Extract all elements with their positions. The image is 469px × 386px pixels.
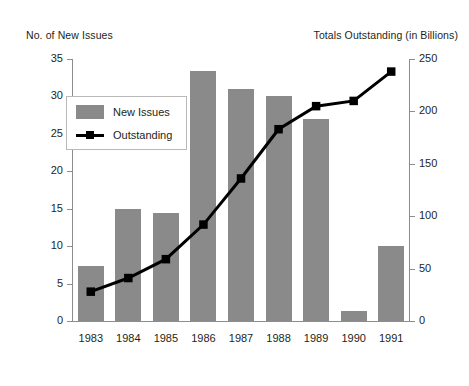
right-axis-tick	[410, 269, 415, 270]
left-axis-tick-label: 35	[51, 53, 63, 64]
data-point-marker	[162, 255, 171, 263]
legend-item-new-issues: New Issues	[76, 105, 170, 119]
x-axis-tick-label: 1985	[154, 332, 178, 344]
x-axis-tick-label: 1988	[266, 332, 290, 344]
left-axis-tick-label: 25	[51, 128, 63, 139]
right-axis-tick-label: 200	[419, 105, 437, 116]
data-point-marker	[312, 102, 321, 111]
left-axis-tick-label: 5	[57, 278, 63, 289]
chart-legend: New Issues Outstanding	[66, 96, 187, 150]
data-point-marker	[349, 97, 358, 106]
right-axis-tick-label: 0	[419, 315, 425, 326]
right-axis-tick-label: 100	[419, 210, 437, 221]
data-point-marker	[87, 287, 96, 296]
right-axis-tick	[410, 216, 415, 217]
x-axis-tick-label: 1991	[379, 332, 403, 344]
right-axis-tick	[410, 164, 415, 165]
right-axis-tick-label: 250	[419, 53, 437, 64]
right-axis-tick	[410, 59, 415, 60]
x-axis-tick-label: 1986	[191, 332, 215, 344]
x-axis-tick-label: 1990	[341, 332, 365, 344]
chart-figure: No. of New Issues Totals Outstanding (in…	[0, 0, 469, 386]
x-axis-tick-label: 1983	[79, 332, 103, 344]
right-axis-tick-label: 150	[419, 158, 437, 169]
left-axis-tick-label: 20	[51, 165, 63, 176]
legend-item-outstanding: Outstanding	[76, 128, 172, 142]
data-point-marker	[199, 220, 208, 229]
right-axis-tick	[410, 111, 415, 112]
left-axis-tick-label: 0	[57, 315, 63, 326]
left-axis-tick-label: 30	[51, 90, 63, 101]
legend-line-square-icon	[76, 128, 104, 142]
data-point-marker	[387, 67, 396, 76]
x-axis-tick-label: 1989	[304, 332, 328, 344]
right-axis-caption: Totals Outstanding (in Billions)	[314, 29, 458, 41]
left-axis-caption: No. of New Issues	[26, 29, 113, 41]
left-axis-tick-label: 15	[51, 203, 63, 214]
data-point-marker	[124, 274, 133, 283]
legend-label-new-issues: New Issues	[113, 106, 170, 118]
right-axis-tick-label: 50	[419, 263, 431, 274]
right-axis-tick	[410, 321, 415, 322]
left-axis-tick-label: 10	[51, 240, 63, 251]
data-point-marker	[237, 174, 246, 183]
data-point-marker	[274, 125, 283, 134]
legend-bar-swatch-icon	[76, 105, 104, 119]
legend-label-outstanding: Outstanding	[113, 129, 172, 141]
x-axis-tick-label: 1984	[116, 332, 140, 344]
x-axis-tick-label: 1987	[229, 332, 253, 344]
